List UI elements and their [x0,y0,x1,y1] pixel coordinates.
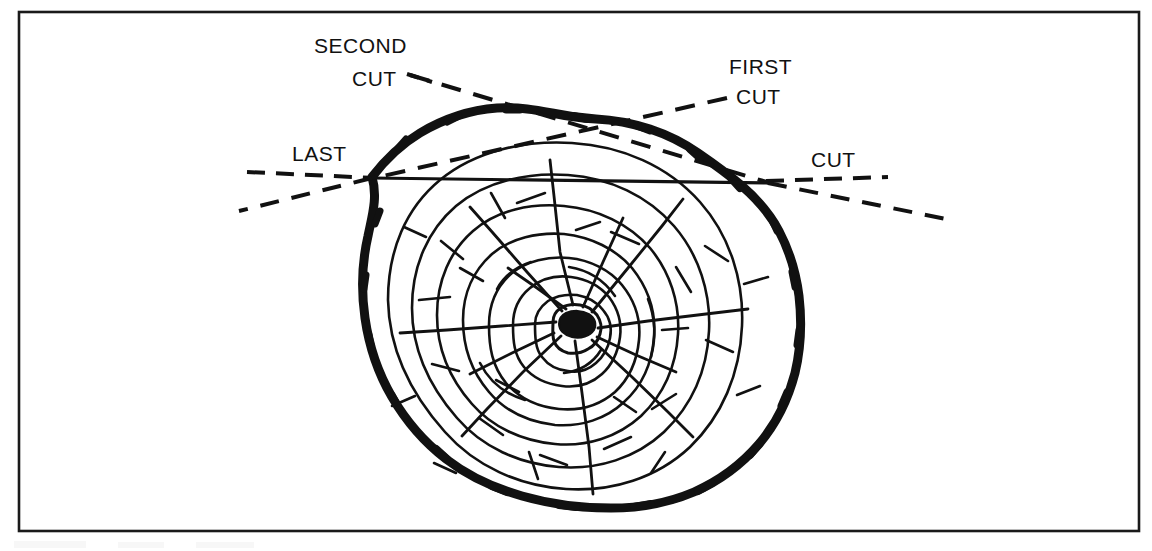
cut-extension-lower-left-dash [239,178,372,211]
figure-canvas: SECOND CUT FIRST CUT LAST CUT [0,0,1152,551]
label-second-cut-line1: SECOND [314,34,407,57]
last-cut-line [372,178,770,183]
pith-center [559,311,595,338]
log-diagram-svg: SECOND CUT FIRST CUT LAST CUT [0,0,1152,551]
right-cut-leader-dash [766,177,888,181]
label-cut-right: CUT [811,148,856,171]
figure-frame [19,12,1139,531]
cut-extension-lower-right-dash [768,183,946,219]
label-second-cut-line2: CUT [352,67,397,90]
label-last-cut: LAST [292,142,347,165]
label-first-cut-line2: CUT [736,85,781,108]
log-cross-section [363,108,801,508]
cut-labels: SECOND CUT FIRST CUT LAST CUT [292,34,856,171]
bark-outline [363,108,801,508]
label-first-cut-line1: FIRST [729,55,792,78]
last-cut-leader-dash [247,172,376,178]
